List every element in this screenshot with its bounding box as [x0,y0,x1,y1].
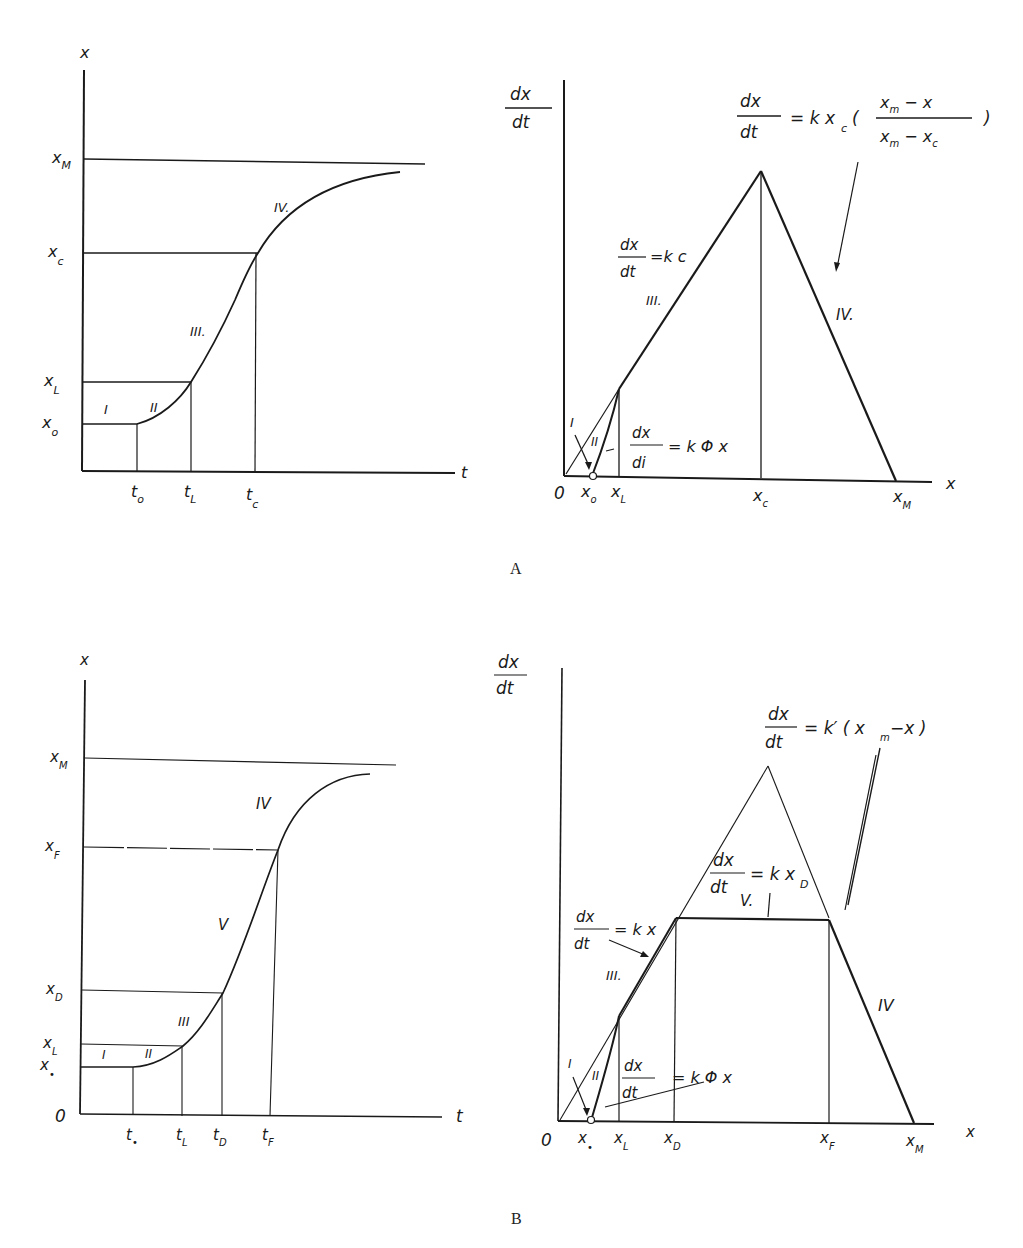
svg-text:I: I [102,1048,106,1062]
svg-text:IV: IV [256,795,272,813]
svg-text:III: III [178,1014,190,1029]
svg-text:x•: x• [39,1056,55,1080]
svg-text:x: x [79,651,89,669]
svg-text:0: 0 [541,1130,552,1150]
svg-text:m: m [880,732,890,743]
svg-text:xo: xo [41,413,58,439]
svg-text:xF: xF [819,1129,835,1152]
svg-text:D: D [800,878,808,891]
svg-text:dt: dt [740,122,759,142]
svg-text:xL: xL [43,371,60,397]
svg-text:dt: dt [496,678,515,698]
svg-text:xm − x: xm − x [879,93,933,115]
svg-text:I: I [104,402,108,417]
figure-canvas: x xM xc xL xo t to tL tc I II III. IV. d… [0,0,1023,1248]
svg-text:tL: tL [184,482,196,506]
svg-text:II: II [591,435,599,449]
svg-text:t: t [456,1106,464,1126]
svg-text:tF: tF [262,1126,274,1148]
svg-text:dt: dt [620,263,637,281]
svg-text:−x ): −x ) [890,718,926,738]
svg-text:I: I [568,1057,572,1071]
svg-text:xc: xc [47,242,64,268]
svg-text:xL: xL [613,1129,628,1152]
svg-text:I: I [570,415,574,430]
svg-text:III.: III. [606,968,622,983]
svg-text:dx: dx [740,91,762,111]
svg-text:dt: dt [574,935,591,953]
svg-text:t: t [461,463,468,482]
svg-text:dx: dx [510,84,532,104]
svg-text:tL: tL [176,1126,187,1148]
svg-text:xD: xD [663,1129,681,1152]
svg-text:= k x: = k x [750,864,796,884]
svg-text:tD: tD [213,1126,227,1148]
svg-text:II: II [592,1069,600,1083]
eq-ii-b-label: = k Φ x [672,1068,733,1087]
svg-text:=k c: =k c [650,247,687,266]
svg-text:to: to [131,482,144,506]
svg-text:x: x [965,1123,975,1141]
svg-text:dt: dt [710,877,729,897]
svg-text:xF: xF [44,837,60,861]
svg-text:= k x: = k x [790,108,836,128]
svg-text:xM: xM [51,148,71,172]
svg-text:di: di [632,454,647,472]
panel-a-right-chart: dx dt I II dx di = k Φ x dx dt =k c III.… [505,80,991,511]
svg-text:V.: V. [740,892,753,910]
panel-b-left-chart: x xM xF xD xL x• 0 t t• tL tD tF I II II… [39,651,464,1148]
svg-text:t•: t• [126,1126,138,1148]
svg-text:IV.: IV. [836,306,854,324]
svg-text:dx: dx [498,652,520,672]
svg-text:): ) [982,108,991,128]
svg-text:IV.: IV. [274,200,289,215]
svg-text:xc: xc [752,486,768,509]
svg-text:xL: xL [42,1034,57,1057]
panel-b-right-chart: dx dt I II dx dt = k Φ x dx dt = k x III… [494,652,975,1155]
svg-text:x•: x• [577,1129,593,1153]
svg-text:dx: dx [713,850,735,870]
svg-text:V: V [218,916,230,934]
svg-text:dx: dx [624,1057,643,1075]
svg-text:dt: dt [765,732,784,752]
svg-text:dx: dx [576,908,595,926]
panel-a-caption: A [510,560,522,578]
eq-ii-label: = k Φ x [668,437,729,456]
svg-text:II: II [145,1047,153,1061]
svg-text:III.: III. [190,324,206,339]
svg-text:xM: xM [49,748,68,771]
svg-text:xL: xL [610,482,626,505]
svg-text:xM: xM [905,1132,924,1155]
svg-text:0: 0 [55,1106,66,1126]
svg-text:= k x: = k x [614,920,657,939]
svg-text:IV: IV [878,996,895,1015]
svg-text:xm − xc: xm − xc [879,127,938,149]
svg-text:x: x [945,474,956,493]
svg-text:xM: xM [892,487,911,511]
svg-text:c: c [841,122,847,135]
svg-text:tc: tc [246,485,258,511]
svg-text:dx: dx [768,704,790,724]
svg-text:xo: xo [580,482,597,505]
svg-text:x: x [79,43,90,62]
svg-text:dx: dx [620,236,639,254]
panel-b-caption: B [511,1210,522,1228]
svg-text:III.: III. [646,293,662,308]
svg-text:= k′ ( x: = k′ ( x [804,718,866,738]
svg-text:(: ( [852,108,860,128]
svg-text:dt: dt [512,112,531,132]
svg-text:II: II [150,400,158,415]
svg-text:0: 0 [554,483,565,503]
svg-text:xD: xD [45,980,63,1003]
svg-text:dx: dx [632,424,651,442]
panel-a-left-chart: x xM xc xL xo t to tL tc I II III. IV. [41,43,468,511]
